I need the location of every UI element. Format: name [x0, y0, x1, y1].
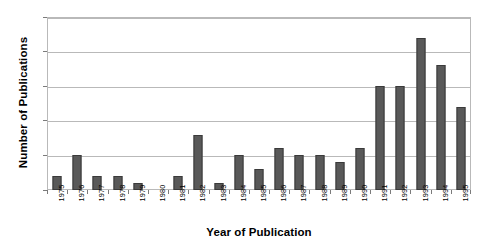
x-tick-label: 1986	[279, 178, 288, 208]
bar-slot	[148, 17, 168, 190]
x-tick-label: 1978	[118, 178, 127, 208]
x-tick-label: 1993	[421, 178, 430, 208]
bar	[376, 86, 385, 190]
x-axis-title: Year of Publication	[44, 226, 474, 238]
x-tick-label: 1987	[299, 178, 308, 208]
x-tick-label: 1990	[360, 178, 369, 208]
bar-slot	[108, 17, 128, 190]
y-axis-title: Number of Publications	[12, 5, 34, 200]
bar-slot	[390, 17, 410, 190]
x-tick-label: 1991	[380, 178, 389, 208]
bar-slot	[431, 17, 451, 190]
bar	[436, 65, 445, 190]
bar	[396, 86, 405, 190]
bar-slot	[370, 17, 390, 190]
x-tick-label: 1980	[158, 178, 167, 208]
x-tick-label: 1982	[198, 178, 207, 208]
x-tick-label: 1992	[400, 178, 409, 208]
x-tick-label: 1977	[97, 178, 106, 208]
bar-chart-figure: Number of Publications 0510152025 197519…	[0, 0, 482, 250]
x-tick-label: 1985	[259, 178, 268, 208]
bar-slot	[188, 17, 208, 190]
bar-slot	[451, 17, 471, 190]
bar	[416, 38, 425, 190]
x-tick-label: 1981	[178, 178, 187, 208]
x-tick-label: 1989	[340, 178, 349, 208]
bar-slot	[87, 17, 107, 190]
x-axis-labels: 1975197619771978197919801981198219831984…	[47, 193, 471, 223]
x-tick-label: 1988	[320, 178, 329, 208]
bar-slot	[249, 17, 269, 190]
bar-slot	[209, 17, 229, 190]
bar-slot	[269, 17, 289, 190]
bar-slot	[330, 17, 350, 190]
bar-slot	[67, 17, 87, 190]
x-tick-label: 1979	[138, 178, 147, 208]
bar-slot	[309, 17, 329, 190]
x-tick-label: 1995	[461, 178, 470, 208]
bar-slot	[47, 17, 67, 190]
bar-slot	[410, 17, 430, 190]
x-tick-label: 1994	[441, 178, 450, 208]
bar-slot	[350, 17, 370, 190]
x-tick-label: 1976	[77, 178, 86, 208]
x-tick-label: 1983	[219, 178, 228, 208]
bars-container	[47, 17, 471, 190]
bar-slot	[128, 17, 148, 190]
bar-slot	[229, 17, 249, 190]
bar-slot	[168, 17, 188, 190]
x-tick-label: 1984	[239, 178, 248, 208]
bar-slot	[289, 17, 309, 190]
x-tick-label: 1975	[57, 178, 66, 208]
